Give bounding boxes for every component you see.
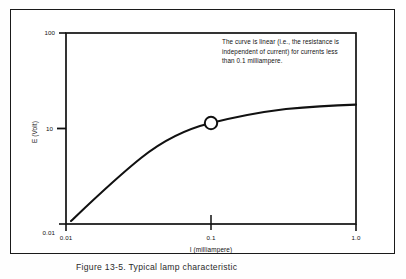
figure-border-box: 100 10 0.01 E (Volt) 0.01 0.1 1.0 I (mil…	[10, 9, 395, 254]
figure-caption-label: Figure 13-5.	[76, 262, 126, 272]
x-tick-label-001: 0.01	[60, 234, 73, 241]
chart-plot: 100 10 0.01 E (Volt) 0.01 0.1 1.0 I (mil…	[11, 10, 396, 255]
y-tick-label-10: 10	[46, 125, 54, 132]
x-tick-label-10: 1.0	[352, 234, 361, 241]
y-tick-label-100: 100	[44, 29, 55, 36]
x-tick-label-01: 0.1	[207, 234, 216, 241]
x-axis-title: I (milliampere)	[190, 246, 233, 254]
annotation-line-1: The curve is linear (i.e., the resistanc…	[222, 38, 339, 46]
figure-caption: Figure 13-5. Typical lamp characteristic	[76, 262, 376, 272]
knee-point-marker	[205, 117, 217, 129]
annotation-line-2: independent of current) for currents les…	[222, 48, 338, 56]
x-axis-ticks	[66, 215, 356, 231]
linearity-annotation: The curve is linear (i.e., the resistanc…	[222, 38, 339, 65]
y-tick-label-001: 0.01	[43, 229, 56, 236]
figure-root: 100 10 0.01 E (Volt) 0.01 0.1 1.0 I (mil…	[0, 0, 406, 279]
figure-caption-text: Typical lamp characteristic	[128, 262, 237, 272]
annotation-line-3: than 0.1 milliampere.	[222, 57, 283, 65]
y-axis-title: E (Volt)	[31, 121, 39, 143]
y-axis-ticks	[57, 33, 66, 224]
